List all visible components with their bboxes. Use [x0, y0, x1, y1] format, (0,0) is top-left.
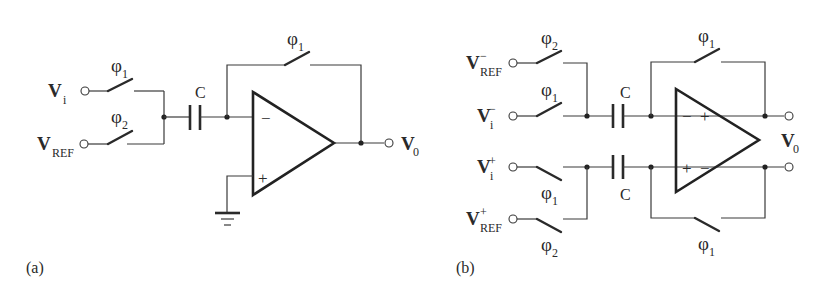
noninverting-sign: +	[258, 169, 268, 188]
capacitor-bottom-label: C	[620, 186, 631, 203]
node-dot	[584, 113, 589, 118]
phi1-label: φ	[541, 79, 552, 100]
node-dot	[762, 113, 767, 118]
input-vi-minus: V − i φ 1	[477, 79, 613, 132]
vo-subscript: 0	[793, 142, 799, 156]
inverting-sign: −	[261, 109, 271, 128]
phi1-feedback-label: φ	[698, 233, 709, 254]
input-vref-minus: V − REF φ 2	[466, 27, 587, 116]
vref-label: V	[37, 133, 51, 154]
capacitor-top-icon	[613, 104, 623, 128]
vo-terminal-icon	[385, 139, 393, 147]
phi1-feedback-sub: 1	[709, 37, 715, 51]
vo-minus-terminal-icon	[785, 112, 793, 120]
bottom-noninverting-sign: +	[682, 159, 692, 178]
feedback-switch-bottom: φ 1	[651, 167, 765, 259]
vo-plus-terminal-icon	[785, 163, 793, 171]
top-output-sign: +	[700, 107, 710, 126]
phi2-label: φ	[541, 27, 552, 48]
diff-opamp-icon: − + + −	[676, 89, 759, 192]
bottom-output-sign: −	[700, 159, 710, 178]
top-inverting-sign: −	[682, 107, 692, 126]
phi1-feedback-label: φ	[287, 28, 298, 49]
feedback-switch-top: φ 1	[651, 25, 765, 116]
phi1-feedback-switch-icon	[695, 49, 719, 62]
phi1-sub: 1	[552, 194, 558, 208]
capacitor-label: C	[195, 84, 206, 101]
phi1-feedback-sub: 1	[298, 40, 304, 54]
vi-plus-terminal-icon	[509, 163, 517, 171]
phi1-feedback-label: φ	[698, 25, 709, 46]
phi1-switch-icon	[108, 79, 132, 91]
vref-plus-sup: +	[480, 205, 487, 219]
capacitor-icon	[190, 105, 200, 130]
vi-plus-sup: +	[489, 154, 496, 168]
vi-label: V	[48, 80, 62, 101]
phi1-feedback-sub: 1	[709, 245, 715, 259]
phi1-feedback-switch-icon	[695, 218, 719, 231]
input-vi: V i φ 1	[48, 55, 164, 107]
vi-terminal-icon	[81, 87, 89, 95]
vref-minus-label: V	[466, 52, 480, 73]
vref-plus-sub: REF	[480, 221, 502, 235]
opamp-icon: − +	[253, 92, 334, 195]
panel-caption-a: (a)	[26, 259, 44, 277]
phi1-label: φ	[541, 182, 552, 203]
vi-minus-terminal-icon	[509, 112, 517, 120]
capacitor-bottom-icon	[613, 155, 623, 179]
phi1-sub: 1	[122, 67, 128, 81]
vref-plus-terminal-icon	[509, 215, 517, 223]
vref-subscript: REF	[52, 146, 74, 160]
circuit-figure: V i φ 1 V REF φ 2 C	[0, 0, 836, 289]
phi2-label: φ	[111, 106, 122, 127]
phi2-sub: 2	[552, 39, 558, 53]
panel-b-fully-differential-sc-integrator: V − REF φ 2 V − i φ 1 C	[456, 25, 799, 277]
input-vref: V REF φ 2	[37, 106, 164, 160]
phi1-label: φ	[111, 55, 122, 76]
vi-subscript: i	[63, 93, 67, 107]
vi-minus-sub: i	[490, 118, 494, 132]
panel-caption-b: (b)	[456, 259, 475, 277]
vref-minus-sub: REF	[480, 65, 502, 79]
input-vi-plus: V + i φ 1	[477, 154, 613, 208]
node-dot	[358, 140, 363, 145]
vref-terminal-icon	[80, 140, 88, 148]
phi2-sub: 2	[122, 118, 128, 132]
panel-a-single-ended-sc-integrator: V i φ 1 V REF φ 2 C	[26, 28, 419, 277]
phi2-switch-icon	[108, 131, 132, 144]
ground-icon	[215, 213, 240, 225]
phi2-switch-icon	[537, 219, 561, 232]
vo-subscript: 0	[413, 145, 419, 159]
phi1-switch-icon	[537, 167, 561, 180]
node-dot	[762, 164, 767, 169]
input-vref-plus: V + REF φ 2	[466, 167, 587, 260]
vref-minus-sup: −	[480, 49, 487, 63]
phi2-label: φ	[541, 234, 552, 255]
phi1-feedback-switch-icon	[285, 52, 309, 65]
vi-plus-sub: i	[490, 169, 494, 183]
vref-minus-terminal-icon	[509, 59, 517, 67]
capacitor-top-label: C	[620, 84, 631, 101]
phi1-sub: 1	[552, 91, 558, 105]
vref-plus-label: V	[466, 208, 480, 229]
vi-minus-sup: −	[489, 102, 496, 116]
phi2-sub: 2	[552, 246, 558, 260]
